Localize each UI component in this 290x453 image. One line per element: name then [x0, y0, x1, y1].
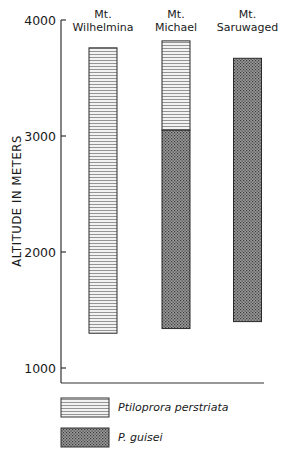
legend-label-perstriata: Ptiloprora perstriata: [118, 401, 229, 414]
bar-segment-guisei: [162, 130, 190, 328]
y-tick-label: 3000: [24, 129, 56, 144]
legend-label-guisei: P. guisei: [118, 431, 163, 444]
y-tick-label: 2000: [24, 245, 56, 260]
category-label: Michael: [155, 21, 197, 34]
legend-swatch-guisei: [61, 428, 109, 447]
legend: Ptiloprora perstriata P. guisei: [61, 398, 229, 447]
altitude-range-chart: 1000200030004000 Mt.WilhelminaMt.Michael…: [0, 0, 290, 453]
bar-segment-guisei: [234, 58, 262, 321]
bar-segment-perstriata: [89, 48, 117, 333]
y-axis-label: ALTITUDE IN METERS: [10, 135, 24, 267]
category-label: Mt.: [239, 8, 256, 21]
category-label: Wilhelmina: [72, 21, 133, 34]
y-tick-label: 1000: [24, 361, 56, 376]
category-label: Mt.: [167, 8, 184, 21]
category-label: Saruwaged: [217, 21, 279, 34]
y-tick-label: 4000: [24, 13, 56, 28]
bar-segment-perstriata: [162, 41, 190, 130]
category-label: Mt.: [94, 8, 111, 21]
legend-swatch-perstriata: [61, 398, 109, 417]
